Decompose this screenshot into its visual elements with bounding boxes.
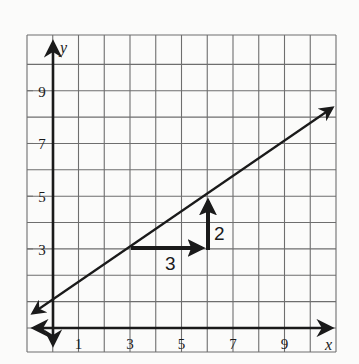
x-tick-label: 3 [126,336,134,352]
x-tick-label: 1 [75,336,83,352]
y-tick-label: 9 [38,84,46,100]
axis-tick-labels: 135793579 [27,84,288,352]
rise-label: 2 [214,223,225,244]
y-tick-label: 3 [38,242,46,258]
y-tick-label: 5 [38,189,46,205]
coordinate-graph: 135793579 y x 3 2 [0,0,359,364]
grid-lines [27,35,336,352]
x-tick-label: 9 [281,336,289,352]
linear-function-line [33,108,332,313]
y-axis-label: y [58,39,68,57]
run-label: 3 [165,253,176,274]
y-tick-label: 7 [38,136,46,152]
x-tick-label: 5 [178,336,186,352]
x-axis-label: x [324,336,332,353]
x-tick-label: 7 [229,336,237,352]
